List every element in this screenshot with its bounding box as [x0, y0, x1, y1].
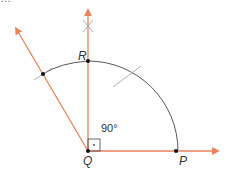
point-P	[174, 149, 178, 153]
point-left-intersection	[41, 72, 45, 76]
construction-arc	[88, 61, 178, 151]
cross-mark-right	[113, 66, 141, 87]
construction-diagram	[0, 0, 233, 172]
label-Q: Q	[83, 154, 92, 168]
point-Q	[86, 149, 90, 153]
label-P: P	[179, 154, 187, 168]
angle-label: 90°	[101, 122, 118, 134]
label-R: R	[78, 49, 87, 63]
